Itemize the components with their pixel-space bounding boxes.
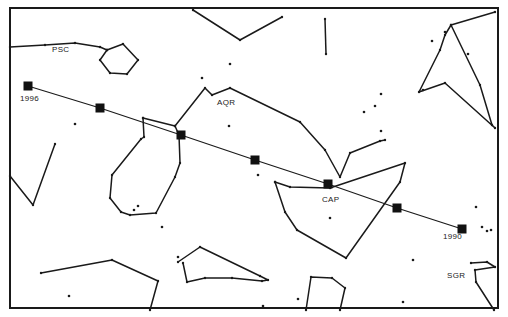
star-vertex (106, 49, 108, 51)
star-vertex (111, 174, 113, 176)
star-vertex (281, 16, 283, 18)
star-vertex (324, 149, 326, 151)
star-vertex (379, 140, 381, 142)
star-dot (431, 40, 434, 43)
planet-track (24, 82, 467, 234)
star-vertex (267, 279, 269, 281)
star-vertex (259, 275, 261, 277)
star-vertex (325, 53, 327, 55)
constellation-line (419, 12, 495, 128)
star-dot (490, 229, 493, 232)
star-dot (363, 111, 366, 114)
star-vertex (384, 139, 386, 141)
star-vertex (494, 266, 496, 268)
star-vertex (444, 34, 446, 36)
star-dot (133, 209, 136, 212)
star-vertex (174, 176, 176, 178)
star-dot (74, 123, 77, 126)
star-vertex (204, 87, 206, 89)
constellation-line (10, 144, 55, 205)
star-vertex (404, 162, 406, 164)
star-vertex (177, 261, 179, 263)
constellation-label-sgr: SGR (447, 271, 465, 280)
star-vertex (199, 246, 201, 248)
star-vertex (54, 143, 56, 145)
star-vertex (140, 138, 142, 140)
star-vertex (122, 43, 124, 45)
star-vertex (120, 211, 122, 213)
star-vertex (299, 121, 301, 123)
star-vertex (74, 42, 76, 44)
star-vertex (339, 309, 341, 311)
track-marker-square (24, 82, 33, 91)
star-dot (201, 77, 204, 80)
star-vertex (296, 229, 298, 231)
star-vertex (231, 277, 233, 279)
star-dot (422, 89, 425, 92)
constellation-line (110, 118, 180, 215)
star-vertex (345, 257, 347, 259)
track-marker-square (251, 156, 260, 165)
star-vertex (284, 211, 286, 213)
star-vertex (444, 82, 446, 84)
star-vertex (157, 280, 159, 282)
star-vertex (211, 94, 213, 96)
star-vertex (349, 152, 351, 154)
star-vertex (109, 72, 111, 74)
star-vertex (192, 9, 194, 11)
constellation-label-aqr: AQR (217, 98, 235, 107)
star-dot (257, 174, 260, 177)
star-chart (0, 0, 508, 317)
star-vertex (470, 262, 472, 264)
star-vertex (475, 281, 477, 283)
star-dot (229, 63, 232, 66)
star-vertex (9, 46, 11, 48)
star-vertex (274, 181, 276, 183)
star-vertex (186, 281, 188, 283)
star-dot (177, 256, 180, 259)
year-label-end: 1990 (443, 232, 462, 241)
year-label-start: 1996 (20, 94, 39, 103)
constellation-label-psc: PSC (52, 45, 69, 54)
star-vertex (174, 125, 176, 127)
star-vertex (9, 175, 11, 177)
constellation-label-cap: CAP (322, 195, 339, 204)
star-dot (137, 205, 140, 208)
star-vertex (399, 181, 401, 183)
star-dot (262, 305, 265, 308)
track-marker-square (96, 104, 105, 113)
star-vertex (182, 262, 184, 264)
star-vertex (494, 11, 496, 13)
star-vertex (331, 277, 333, 279)
star-dot (486, 230, 489, 233)
star-vertex (261, 280, 263, 282)
star-dot (402, 301, 405, 304)
star-dot (444, 31, 447, 34)
star-vertex (109, 197, 111, 199)
star-dot (467, 53, 470, 56)
star-dot (374, 105, 377, 108)
star-dot (161, 226, 164, 229)
constellation-line (325, 19, 326, 54)
star-vertex (450, 24, 452, 26)
track-marker-square (393, 204, 402, 213)
constellation-line (193, 10, 282, 40)
star-vertex (40, 272, 42, 274)
constellation-line (100, 44, 138, 74)
constellation-line (178, 247, 268, 282)
star-vertex (494, 127, 496, 129)
constellation-line (175, 88, 385, 177)
track-marker-square (177, 131, 186, 140)
star-vertex (486, 261, 488, 263)
track-marker-square (324, 180, 333, 189)
star-dot (380, 130, 383, 133)
star-vertex (204, 277, 206, 279)
star-dot (481, 226, 484, 229)
star-vertex (99, 59, 101, 61)
constellation-line (41, 260, 158, 310)
star-vertex (155, 212, 157, 214)
star-vertex (344, 287, 346, 289)
star-vertex (143, 136, 145, 138)
star-vertex (137, 59, 139, 61)
star-vertex (149, 309, 151, 311)
